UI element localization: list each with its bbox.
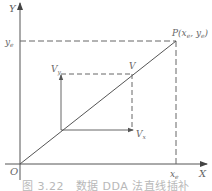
figure-caption: 图 3.22 数据 DDA 法直线插补 bbox=[0, 181, 212, 191]
interpolation-line bbox=[20, 41, 176, 164]
dda-interpolation-figure: Y X O ye xe P(xe, ye) V Vy Vx 图 3.22 数据 … bbox=[0, 0, 212, 191]
y-axis-label: Y bbox=[9, 3, 17, 14]
velocity-v-label: V bbox=[129, 61, 137, 71]
x-axis-label: X bbox=[198, 168, 207, 179]
origin-label: O bbox=[10, 166, 18, 177]
ye-tick-label: ye bbox=[4, 37, 14, 48]
velocity-vx-label: Vx bbox=[136, 129, 147, 140]
xe-tick-label: xe bbox=[170, 169, 179, 180]
endpoint-p-label: P(xe, ye) bbox=[171, 28, 209, 39]
velocity-vy-label: Vy bbox=[51, 64, 62, 76]
diagram-canvas: Y X O ye xe P(xe, ye) V Vy Vx bbox=[0, 0, 212, 191]
